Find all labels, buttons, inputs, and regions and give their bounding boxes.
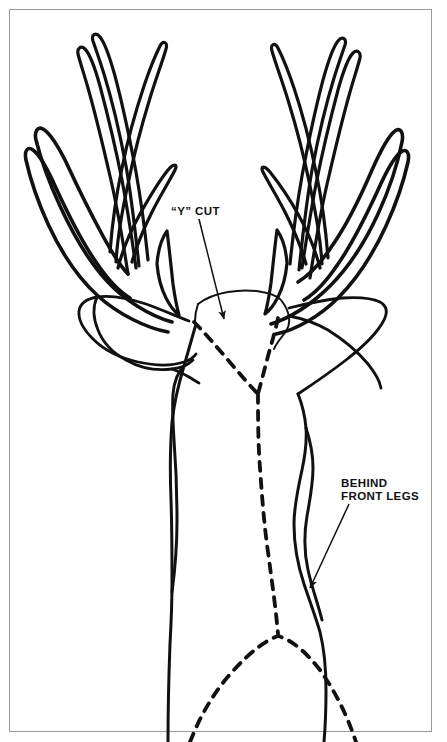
neck-left-outline (168, 324, 196, 742)
y-cut-left-branch (194, 322, 258, 394)
right-antler-tine-3-upper (272, 44, 328, 264)
label-y-cut: “Y” CUT (171, 205, 220, 218)
line-art-canvas (0, 0, 447, 742)
right-ear (289, 298, 386, 394)
deer-cape-illustration (0, 0, 447, 742)
label-behind-front-legs: BEHIND FRONT LEGS (341, 477, 419, 503)
leader-line-behind-front-legs (310, 504, 349, 588)
left-antler-outer-beam (35, 128, 172, 322)
y-cut-right-branch (258, 318, 278, 394)
right-ear-lower-edge (289, 316, 381, 388)
leader-line-y-cut (199, 219, 224, 319)
neck-left-outline-waver (172, 366, 184, 592)
left-antler-tine-3-upper (110, 42, 166, 262)
skull-plate-left-edge (195, 304, 198, 321)
y-cut-center-descender (258, 394, 278, 634)
right-brow-tine (265, 230, 287, 314)
left-brow-tine (157, 231, 179, 315)
brisket-arc-dashed (190, 636, 356, 742)
